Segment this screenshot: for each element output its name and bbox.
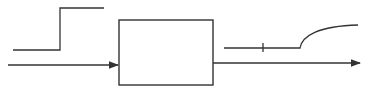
- block-diagram: [0, 0, 370, 88]
- step-input-waveform: [13, 8, 104, 50]
- output-response-waveform: [224, 25, 358, 52]
- system-block: [119, 20, 213, 85]
